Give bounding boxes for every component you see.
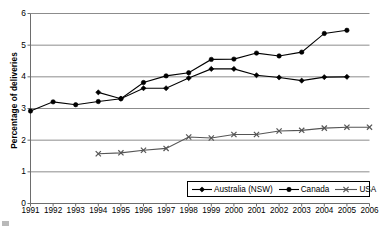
data-point [286, 187, 290, 191]
data-point [209, 66, 214, 71]
data-point [28, 109, 32, 113]
data-point [51, 100, 55, 104]
data-point [232, 57, 236, 61]
data-point [322, 31, 326, 35]
data-point [74, 103, 78, 107]
legend-item-usa[interactable]: USA [334, 184, 381, 195]
data-point [96, 99, 100, 103]
data-point [277, 54, 281, 58]
data-point [300, 50, 304, 54]
data-point [141, 86, 146, 91]
data-point [231, 66, 236, 71]
legend-label: Australia (NSW) [213, 185, 278, 194]
legend-label: Canada [300, 185, 335, 194]
data-point [164, 86, 169, 91]
data-point [209, 57, 213, 61]
data-point [164, 74, 168, 78]
series-canada [28, 28, 349, 113]
data-point [345, 28, 349, 32]
series-australia-nsw [96, 66, 350, 101]
data-point [277, 75, 282, 80]
data-point [96, 90, 101, 95]
legend-marker-circle-icon [278, 184, 300, 195]
legend-item-canada[interactable]: Canada [278, 184, 335, 195]
data-point [199, 186, 204, 191]
series-line [98, 69, 347, 99]
data-point [254, 51, 258, 55]
data-point [186, 76, 191, 81]
legend-marker-cross-icon [334, 184, 358, 195]
data-point [119, 96, 123, 100]
scan-artifact [2, 221, 9, 226]
legend-marker-diamond-icon [191, 184, 213, 195]
legend-label: USA [358, 185, 381, 194]
legend-item-australia-nsw[interactable]: Australia (NSW) [191, 184, 278, 195]
data-point [299, 78, 304, 83]
data-point [141, 80, 145, 84]
data-point [322, 75, 327, 80]
data-point [344, 74, 349, 79]
chart-legend: Australia (NSW)CanadaUSA [187, 181, 370, 197]
data-point [187, 71, 191, 75]
